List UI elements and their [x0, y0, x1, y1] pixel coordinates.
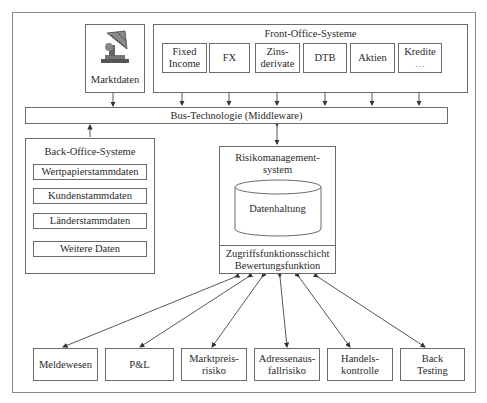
- access-layer: Zugriffsfunktionsschicht Bewertungsfunkt…: [220, 245, 335, 273]
- risk-management-title: Risikomanagement- system: [220, 152, 335, 176]
- back-office-item-kundenstammdaten: Kundenstammdaten: [33, 188, 147, 204]
- output-adressenausfallrisiko: Adressenaus- fallrisiko: [254, 348, 320, 381]
- back-office-item-wertpapierstammdaten: Wertpapierstammdaten: [33, 164, 147, 180]
- satellite-dish-icon: [99, 29, 131, 65]
- output-meldewesen: Meldewesen: [33, 348, 98, 381]
- output-handelskontrolle: Handels- kontrolle: [327, 348, 393, 381]
- front-office-item-dtb: DTB: [303, 43, 347, 73]
- marktdaten-label: Marktdaten: [86, 74, 144, 86]
- front-office-item-fx: FX: [209, 43, 250, 73]
- marktdaten-box: Marktdaten: [85, 24, 145, 93]
- back-office-title: Back-Office-Systeme: [26, 146, 154, 158]
- output-marktpreisrisiko: Marktpreis- risiko: [181, 348, 247, 381]
- front-office-item-zinsderivate: Zins- derivate: [255, 43, 300, 73]
- back-office-item-weitere-daten: Weitere Daten: [33, 241, 147, 257]
- front-office-title: Front-Office-Systeme: [154, 28, 467, 40]
- risk-management-box: Risikomanagement- system Datenhaltung Zu…: [219, 146, 336, 274]
- database-label: Datenhaltung: [220, 203, 335, 215]
- output-pnl: P&L: [105, 348, 174, 381]
- middleware-bus: Bus-Technologie (Middleware): [25, 107, 448, 124]
- front-office-item-aktien: Aktien: [350, 43, 395, 73]
- back-office-item-laenderstammdaten: Länderstammdaten: [33, 213, 147, 229]
- output-back-testing: Back Testing: [400, 348, 465, 381]
- front-office-item-fixed-income: Fixed Income: [162, 43, 207, 73]
- front-office-item-kredite: Kredite …: [398, 43, 442, 73]
